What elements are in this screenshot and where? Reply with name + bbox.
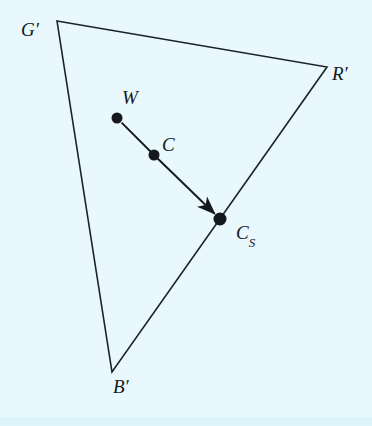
primaries-triangle	[57, 21, 327, 372]
point-label-w: W	[122, 88, 138, 107]
point-label-cs-subscript: S	[249, 235, 256, 250]
vertex-label-r-prime: R′	[332, 64, 348, 83]
bottom-edge-band	[0, 417, 372, 426]
point-label-cs-base: C	[236, 222, 249, 243]
vertex-label-b-prime: B′	[113, 377, 129, 396]
vertex-label-g-prime: G′	[21, 20, 39, 39]
point-marker-c	[149, 150, 160, 161]
point-marker-cs	[214, 213, 227, 226]
point-label-cs: CS	[236, 223, 255, 246]
diagram-canvas	[0, 0, 372, 426]
point-label-c: C	[162, 135, 175, 154]
point-marker-w	[112, 113, 123, 124]
chromaticity-diagram: G′ R′ B′ W C CS	[0, 0, 372, 426]
